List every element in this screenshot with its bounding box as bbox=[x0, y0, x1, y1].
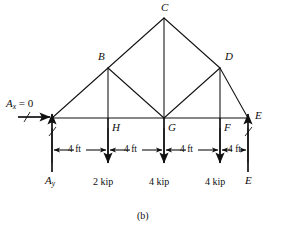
reaction-label-Ay-subscript: y bbox=[52, 179, 55, 188]
joint-label-D: D bbox=[225, 51, 233, 62]
joint-label-H: H bbox=[112, 122, 120, 133]
joint-label-G: G bbox=[168, 122, 176, 133]
member-A-B bbox=[52, 68, 108, 118]
slash-tick-marks bbox=[24, 112, 252, 136]
reaction-label-Ax: Ax = 0 bbox=[6, 98, 33, 111]
reaction-label-Ay: Ay bbox=[45, 175, 55, 188]
load-label-H: 2 kip bbox=[93, 177, 113, 187]
member-G-D-diagonal bbox=[164, 68, 220, 118]
figure-caption: (b) bbox=[137, 211, 149, 221]
dimension-label-3: 4 ft bbox=[180, 145, 193, 155]
reaction-label-E: E bbox=[245, 175, 252, 186]
dimension-line-group bbox=[52, 128, 248, 163]
load-label-F: 4 kip bbox=[205, 177, 225, 187]
joint-label-B: B bbox=[98, 51, 105, 62]
reaction-label-Ay-symbol: A bbox=[45, 174, 52, 186]
truss-members bbox=[52, 18, 248, 118]
joint-label-E: E bbox=[255, 110, 262, 121]
reaction-label-Ax-value: = 0 bbox=[16, 97, 33, 109]
truss-diagram-svg bbox=[0, 0, 297, 235]
dimension-label-1: 4 ft bbox=[68, 145, 81, 155]
member-B-G-diagonal bbox=[108, 68, 164, 118]
member-C-D bbox=[164, 18, 220, 68]
joint-label-C: C bbox=[161, 2, 168, 13]
joint-label-F: F bbox=[224, 122, 231, 133]
member-B-C bbox=[108, 18, 164, 68]
member-D-E bbox=[220, 68, 248, 118]
dimension-label-4: 4 ft bbox=[228, 145, 241, 155]
reaction-arrows bbox=[52, 114, 248, 172]
reaction-label-Ax-symbol: A bbox=[6, 97, 13, 109]
truss-figure: C B D H G F E Ax = 0 Ay E 4 ft 4 ft 4 ft… bbox=[0, 0, 297, 235]
dimension-label-2: 4 ft bbox=[124, 145, 137, 155]
load-label-G: 4 kip bbox=[149, 177, 169, 187]
